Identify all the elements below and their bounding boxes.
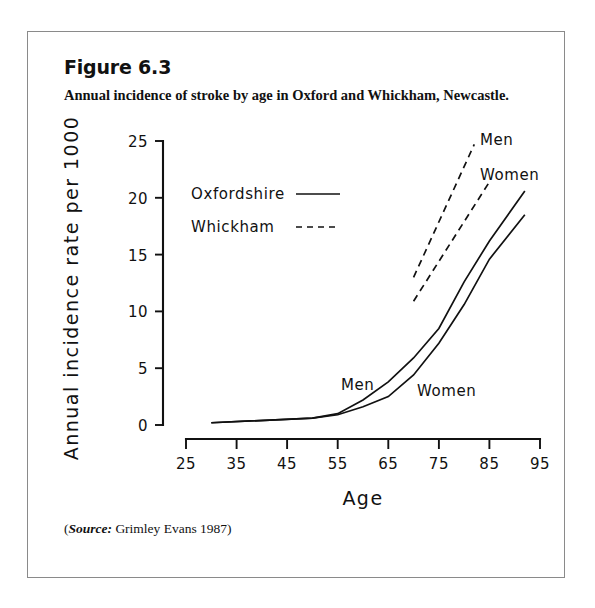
legend-label-oxfordshire: Oxfordshire <box>191 185 285 203</box>
y-tick-label-15: 15 <box>128 247 148 265</box>
source-credit: (Source: Grimley Evans 1987) <box>64 521 232 537</box>
y-tick-label-5: 5 <box>138 360 148 378</box>
series-annotations: Men Women Men Women <box>341 131 539 400</box>
x-tick-label-55: 55 <box>328 455 348 473</box>
legend-label-whickham: Whickham <box>191 218 275 236</box>
x-tick-label-45: 45 <box>277 455 297 473</box>
x-axis-title: Age <box>342 487 383 509</box>
chart-plot-area: 25 20 15 10 5 0 Annual incidence rate pe… <box>28 32 566 579</box>
x-tick-label-75: 75 <box>429 455 449 473</box>
annotation-men-oxfordshire: Men <box>341 376 374 394</box>
page-canvas: Figure 6.3 Annual incidence of stroke by… <box>0 0 595 608</box>
annotation-women-whickham: Women <box>480 166 539 184</box>
y-tick-label-25: 25 <box>128 133 148 151</box>
series-whickham-women <box>414 182 490 301</box>
x-tick-label-35: 35 <box>227 455 247 473</box>
y-axis: 25 20 15 10 5 0 Annual incidence rate pe… <box>60 116 163 461</box>
x-axis: 25 35 45 55 65 75 85 95 Age <box>176 439 550 509</box>
annotation-women-oxfordshire: Women <box>417 382 476 400</box>
y-axis-title: Annual incidence rate per 1000 <box>60 116 82 461</box>
series-whickham-men <box>414 144 475 277</box>
chart-legend: Oxfordshire Whickham <box>191 185 340 236</box>
source-text: Grimley Evans 1987) <box>112 521 232 536</box>
y-tick-label-0: 0 <box>138 417 148 435</box>
x-tick-label-65: 65 <box>378 455 398 473</box>
y-tick-label-10: 10 <box>128 303 148 321</box>
figure-frame: Figure 6.3 Annual incidence of stroke by… <box>27 31 565 578</box>
x-tick-label-85: 85 <box>479 455 499 473</box>
annotation-men-whickham: Men <box>480 131 513 149</box>
x-tick-label-95: 95 <box>530 455 550 473</box>
x-tick-label-25: 25 <box>176 455 196 473</box>
source-label: Source: <box>69 521 113 536</box>
y-tick-label-20: 20 <box>128 190 148 208</box>
